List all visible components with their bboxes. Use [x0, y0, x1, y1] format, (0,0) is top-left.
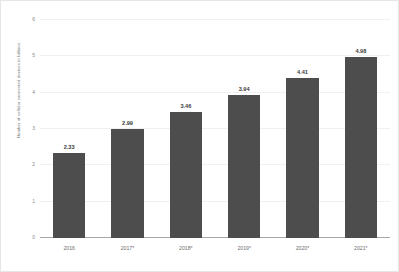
bar[interactable]: [170, 112, 202, 238]
bar-group: 3.942019*: [228, 20, 260, 238]
y-tick-label: 1: [32, 198, 35, 204]
y-tick-label: 4: [32, 89, 35, 95]
bar[interactable]: [228, 95, 260, 238]
x-tick-label: 2017*: [111, 245, 143, 251]
bar-value-label: 3.94: [228, 86, 260, 92]
y-axis-title: Number of cellular connected devices in …: [16, 11, 21, 171]
y-tick-label: 2: [32, 161, 35, 167]
x-tick-label: 2016: [53, 245, 85, 251]
y-tick-label: 6: [32, 16, 35, 22]
bar-group: 2.332016: [53, 20, 85, 238]
bar-group: 4.412020*: [286, 20, 318, 238]
x-tick-label: 2019*: [228, 245, 260, 251]
bar-group: 3.462018*: [170, 20, 202, 238]
x-tick-label: 2021*: [345, 245, 377, 251]
x-tick-label: 2018*: [170, 245, 202, 251]
bar-group: 2.992017*: [111, 20, 143, 238]
bar-value-label: 2.99: [111, 120, 143, 126]
bar[interactable]: [111, 129, 143, 238]
bar[interactable]: [286, 78, 318, 238]
bar-chart: Number of cellular connected devices in …: [0, 0, 399, 272]
bar[interactable]: [345, 57, 377, 238]
y-tick-label: 5: [32, 52, 35, 58]
y-tick-label: 3: [32, 125, 35, 131]
bar[interactable]: [53, 153, 85, 238]
bar-value-label: 3.46: [170, 103, 202, 109]
bar-group: 4.982021*: [345, 20, 377, 238]
y-tick-label: 0: [32, 234, 35, 240]
plot-area: 0123456 2.3320162.992017*3.462018*3.9420…: [40, 20, 390, 238]
x-tick-label: 2020*: [286, 245, 318, 251]
bars-layer: 2.3320162.992017*3.462018*3.942019*4.412…: [40, 20, 390, 238]
bar-value-label: 4.41: [286, 69, 318, 75]
bar-value-label: 2.33: [53, 144, 85, 150]
bar-value-label: 4.98: [345, 48, 377, 54]
